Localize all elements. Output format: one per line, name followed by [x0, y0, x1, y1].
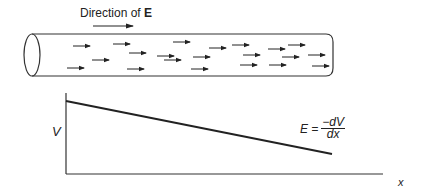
y-axis-label: V — [52, 124, 61, 139]
potential-line — [66, 101, 332, 154]
conductor-cylinder — [24, 34, 333, 76]
equation-fraction: −dV dx — [321, 117, 345, 140]
field-equation: E = −dV dx — [300, 117, 345, 140]
title-symbol: E — [144, 6, 152, 20]
diagram-canvas — [0, 0, 425, 190]
x-axis-label: x — [398, 176, 404, 188]
field-arrows — [67, 42, 329, 69]
cylinder-end-ellipse — [24, 34, 40, 76]
title-prefix: Direction of — [80, 6, 144, 20]
equation-denominator: dx — [327, 129, 340, 140]
direction-title: Direction of E — [80, 6, 152, 20]
equation-lhs: E = — [300, 122, 318, 136]
